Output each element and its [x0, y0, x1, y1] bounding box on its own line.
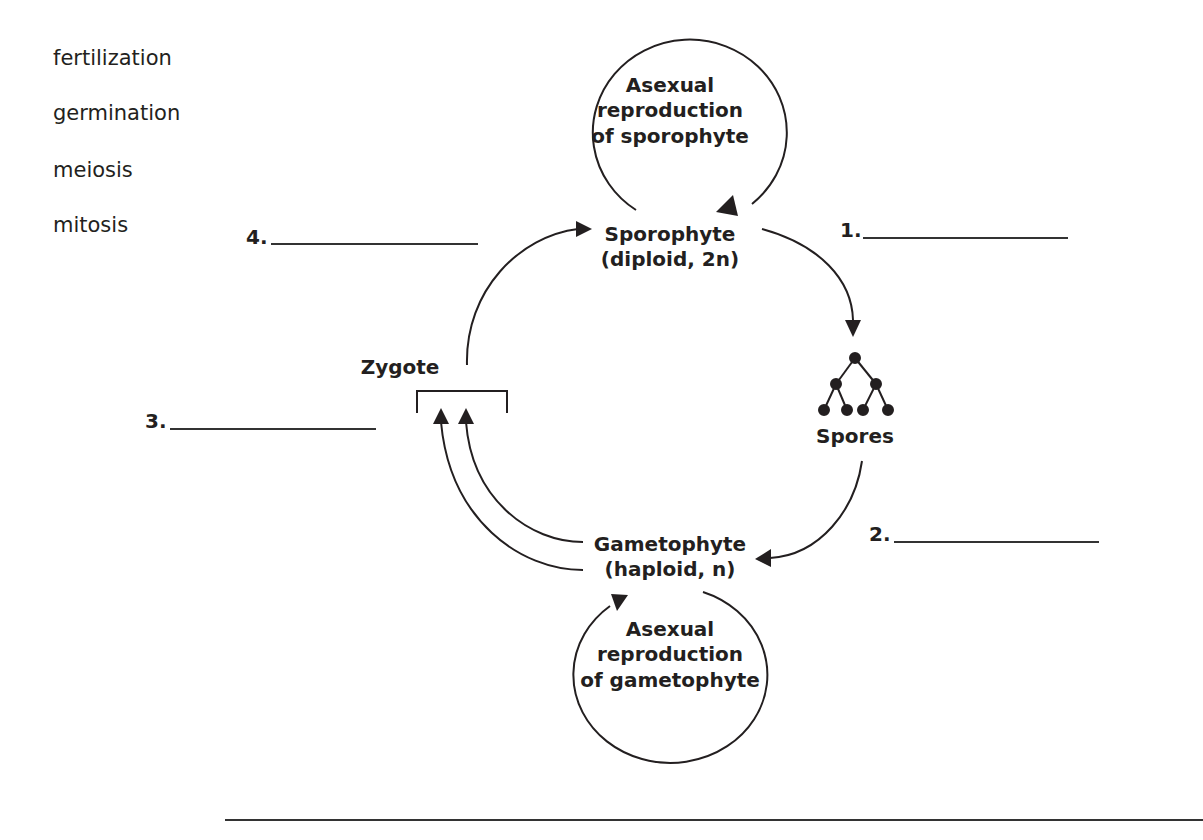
sporophyte-ploidy: (diploid, 2n)	[590, 247, 750, 272]
label-line: of gametophyte	[578, 668, 762, 693]
blank-2-answer-line[interactable]	[894, 541, 1099, 543]
arrowhead-icon	[755, 549, 771, 567]
arrowhead-icon	[716, 195, 738, 216]
sporophyte-title: Sporophyte	[590, 222, 750, 247]
spores-icon	[819, 353, 893, 415]
germination-arrow	[755, 461, 862, 567]
blank-3-number: 3.	[145, 409, 167, 433]
asexual-gametophyte-label: Asexual reproduction of gametophyte	[578, 617, 762, 693]
label-line: reproduction	[590, 98, 750, 123]
zygote-bracket	[417, 391, 507, 413]
zygote-label: Zygote	[355, 355, 445, 380]
sporophyte-label: Sporophyte (diploid, 2n)	[590, 222, 750, 273]
arrowhead-icon	[433, 408, 449, 424]
label-line: of sporophyte	[590, 124, 750, 149]
gametophyte-label: Gametophyte (haploid, n)	[584, 532, 756, 583]
meiosis-arrow	[762, 229, 861, 337]
fertilization-arrows	[433, 408, 583, 570]
arrowhead-icon	[845, 320, 861, 337]
arrowhead-icon	[611, 594, 628, 611]
blank-1-answer-line[interactable]	[863, 237, 1068, 239]
arrowhead-icon	[458, 408, 474, 424]
label-line: Asexual	[590, 73, 750, 98]
blank-4-number: 4.	[246, 225, 268, 249]
blank-2-number: 2.	[869, 522, 891, 546]
asexual-sporophyte-label: Asexual reproduction of sporophyte	[590, 73, 750, 149]
gametophyte-title: Gametophyte	[584, 532, 756, 557]
mitosis-arrow	[467, 221, 592, 365]
blank-1-number: 1.	[840, 218, 862, 242]
gametophyte-ploidy: (haploid, n)	[584, 557, 756, 582]
spores-label: Spores	[815, 424, 895, 449]
blank-4-answer-line[interactable]	[271, 243, 478, 245]
label-line: Asexual	[578, 617, 762, 642]
blank-3-answer-line[interactable]	[170, 428, 376, 430]
label-line: reproduction	[578, 642, 762, 667]
